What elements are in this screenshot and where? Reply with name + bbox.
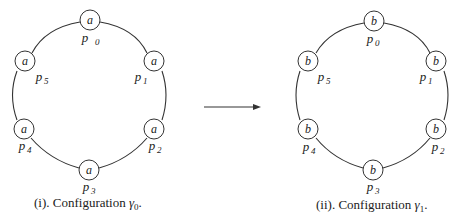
svg-text:p: p	[431, 139, 439, 154]
svg-text:4: 4	[311, 146, 316, 156]
node-p4: b p 4	[298, 119, 318, 156]
svg-text:b: b	[305, 54, 311, 68]
svg-text:b: b	[433, 122, 439, 136]
svg-text:p: p	[366, 179, 374, 194]
svg-text:4: 4	[27, 145, 32, 155]
svg-text:a: a	[87, 13, 93, 27]
node-p3: b p 3	[363, 160, 383, 196]
svg-text:p: p	[302, 139, 310, 154]
svg-text:a: a	[21, 122, 27, 136]
caption-gamma1: (ii). Configuration γ1.	[316, 197, 427, 214]
svg-text:p: p	[317, 69, 325, 84]
svg-text:2: 2	[440, 146, 445, 156]
svg-text:p: p	[148, 138, 156, 153]
node-p2: b p 2	[426, 119, 446, 156]
svg-text:b: b	[371, 14, 377, 28]
svg-text:b: b	[305, 122, 311, 136]
ring-configuration-diagram: a p 0 a p 1 a p 2 a p 3 a p 4	[0, 0, 459, 223]
svg-text:b: b	[433, 54, 439, 68]
ring-edges	[13, 22, 167, 168]
svg-text:a: a	[22, 54, 28, 68]
svg-text:1: 1	[428, 76, 433, 86]
svg-text:p: p	[18, 138, 26, 153]
figure-gamma1: b p 0 b p 1 b p 2 b p 3 b p 4	[296, 11, 448, 214]
node-p1: b p 1	[419, 51, 446, 86]
node-p0: b p 0	[364, 11, 384, 48]
svg-text:p: p	[366, 31, 374, 46]
svg-text:a: a	[86, 163, 92, 177]
svg-text:2: 2	[157, 145, 162, 155]
svg-text:0: 0	[95, 37, 100, 47]
svg-text:p: p	[35, 69, 43, 84]
node-p1: a p 1	[134, 51, 164, 86]
svg-text:5: 5	[326, 76, 331, 86]
svg-text:p: p	[419, 69, 427, 84]
figure-gamma0: a p 0 a p 1 a p 2 a p 3 a p 4	[13, 10, 167, 212]
node-p3: a p 3	[79, 160, 99, 196]
node-p5: b p 5	[298, 51, 331, 86]
caption-gamma0: (i). Configuration γ0.	[34, 195, 142, 212]
svg-text:p: p	[134, 69, 142, 84]
svg-text:p: p	[81, 30, 89, 45]
node-p5: a p 5	[15, 51, 49, 86]
node-p0: a p 0	[80, 10, 100, 47]
svg-text:0: 0	[375, 38, 380, 48]
svg-text:a: a	[151, 54, 157, 68]
svg-text:p: p	[82, 179, 90, 194]
transition-arrow	[204, 104, 261, 110]
svg-text:1: 1	[143, 76, 148, 86]
svg-text:3: 3	[374, 186, 380, 196]
node-p4: a p 4	[14, 119, 34, 155]
node-p2: a p 2	[144, 119, 164, 155]
svg-text:5: 5	[44, 76, 49, 86]
svg-text:b: b	[370, 163, 376, 177]
svg-text:a: a	[151, 122, 157, 136]
